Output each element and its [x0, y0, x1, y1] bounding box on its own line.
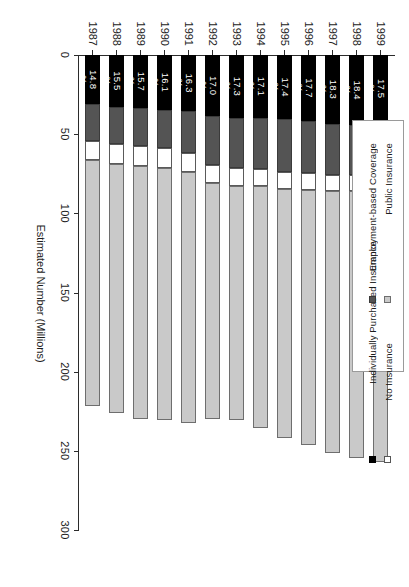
bar-segment-public[interactable]	[133, 108, 148, 146]
legend-swatch-none	[369, 456, 376, 463]
bar-segment-emp[interactable]	[85, 160, 100, 405]
legend-swatch-emp	[384, 296, 391, 303]
bar-segment-emp[interactable]	[109, 164, 124, 414]
year-label: 1999	[375, 8, 387, 46]
bar-segment-indiv[interactable]	[205, 165, 220, 183]
axis-tick	[74, 451, 79, 452]
legend-label: Employment-based Coverage	[367, 143, 378, 271]
bar-segment-emp[interactable]	[133, 166, 148, 419]
bar-segment-emp[interactable]	[157, 168, 172, 420]
axis-tick-label: 200	[59, 362, 71, 381]
year-label: 1991	[183, 8, 195, 46]
legend-swatch-public	[369, 296, 376, 303]
legend-swatch-indiv	[384, 456, 391, 463]
bar-segment-indiv[interactable]	[157, 148, 172, 167]
bar-value-label: 17.1%	[246, 55, 266, 118]
bar-segment-indiv[interactable]	[229, 168, 244, 186]
year-label: 1995	[279, 8, 291, 46]
year-label: 1993	[231, 8, 243, 46]
axis-tick-label: 150	[59, 283, 71, 302]
bar-segment-public[interactable]	[157, 110, 172, 148]
axis-tick	[74, 293, 79, 294]
bar-value-label: 15.5%	[102, 55, 122, 107]
year-label: 1992	[207, 8, 219, 46]
year-label: 1987	[87, 8, 99, 46]
bar-segment-public[interactable]	[85, 104, 100, 141]
bar-value-label: 17.0%	[198, 55, 218, 116]
chart-page: 050100150200250300 Estimated Number (Mil…	[0, 0, 409, 587]
bar-segment-emp[interactable]	[325, 191, 340, 453]
bar-segment-emp[interactable]	[205, 183, 220, 419]
bar-value-label: 18.4%	[342, 55, 362, 125]
bar-value-label: 17.3%	[222, 55, 242, 118]
bar-value-label: 14.8%	[78, 55, 98, 104]
bar-segment-emp[interactable]	[277, 189, 292, 439]
bar-segment-public[interactable]	[109, 107, 124, 144]
bar-segment-indiv[interactable]	[133, 146, 148, 166]
chart-legend: No InsuranceIndividually Purchased Insur…	[352, 120, 404, 372]
rotated-chart-canvas: 050100150200250300 Estimated Number (Mil…	[0, 0, 409, 587]
bar-segment-indiv[interactable]	[181, 153, 196, 172]
bar-segment-public[interactable]	[301, 121, 316, 173]
bar-segment-indiv[interactable]	[109, 144, 124, 164]
year-label: 1990	[159, 8, 171, 46]
plot-area: 050100150200250300 Estimated Number (Mil…	[0, 0, 409, 587]
bar-segment-indiv[interactable]	[85, 141, 100, 160]
bar-value-label: 15.7%	[126, 55, 146, 108]
axis-tick-label: 100	[59, 204, 71, 223]
axis-tick-label: 50	[59, 128, 71, 141]
bar-segment-indiv[interactable]	[253, 169, 268, 186]
bar-segment-indiv[interactable]	[325, 175, 340, 191]
bar-segment-public[interactable]	[325, 124, 340, 175]
axis-tick	[74, 134, 79, 135]
bar-segment-public[interactable]	[181, 111, 196, 153]
legend-label: Public Insurance	[383, 143, 394, 215]
value-axis-title: Estimated Number (Millions)	[35, 0, 47, 587]
bar-value-label: 18.3%	[318, 55, 338, 124]
bar-value-label: 16.3%	[174, 55, 194, 111]
year-label: 1989	[135, 8, 147, 46]
axis-tick	[74, 530, 79, 531]
year-label: 1994	[255, 8, 267, 46]
legend-label: No Insurance	[383, 343, 394, 401]
axis-tick-label: 250	[59, 441, 71, 460]
bar-segment-emp[interactable]	[229, 186, 244, 421]
bar-value-label: 17.4%	[270, 55, 290, 119]
axis-tick-label: 0	[59, 52, 71, 58]
bar-segment-emp[interactable]	[181, 172, 196, 423]
axis-tick-label: 300	[59, 521, 71, 540]
bar-segment-public[interactable]	[205, 116, 220, 165]
bar-segment-public[interactable]	[229, 118, 244, 168]
year-label: 1998	[351, 8, 363, 46]
bar-segment-emp[interactable]	[253, 186, 268, 428]
bar-value-label: 16.1%	[150, 55, 170, 110]
axis-tick	[74, 213, 79, 214]
bar-value-label: 17.7%	[294, 55, 314, 121]
year-label: 1996	[303, 8, 315, 46]
bar-value-label: 17.5%	[366, 55, 386, 122]
axis-tick	[74, 372, 79, 373]
bar-segment-indiv[interactable]	[277, 172, 292, 189]
year-label: 1988	[111, 8, 123, 46]
bar-segment-public[interactable]	[277, 119, 292, 172]
bar-segment-public[interactable]	[253, 118, 268, 170]
bar-segment-emp[interactable]	[301, 190, 316, 446]
bar-segment-indiv[interactable]	[301, 173, 316, 189]
year-label: 1997	[327, 8, 339, 46]
